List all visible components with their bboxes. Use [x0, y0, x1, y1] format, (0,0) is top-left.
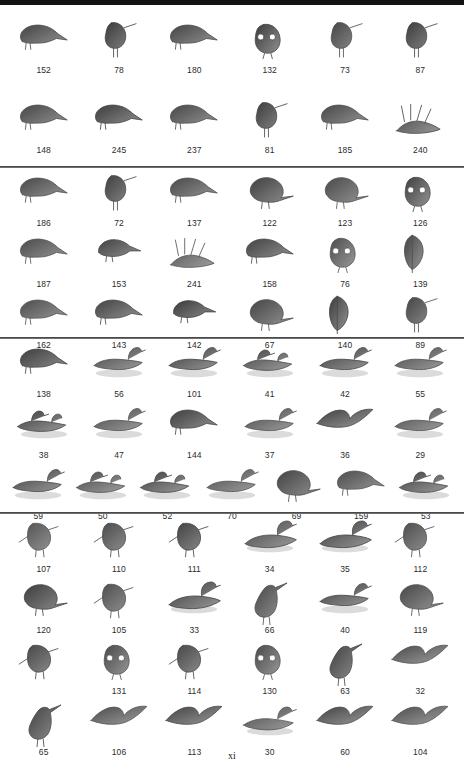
- duck-flying-figure: [314, 400, 376, 450]
- bird-pigeon-figure: [239, 168, 301, 218]
- plate-figure-cell[interactable]: 66: [232, 575, 307, 636]
- plate-figure-cell[interactable]: 120: [6, 575, 81, 636]
- plate-figure-cell[interactable]: 126: [383, 168, 458, 229]
- plate-figure-cell[interactable]: 76: [307, 229, 382, 290]
- plate-figure-cell[interactable]: 185: [307, 95, 382, 156]
- heron-green-figure: [13, 697, 75, 747]
- plate-row: 152781801327387: [0, 15, 464, 76]
- plate-figure-cell[interactable]: 106: [81, 697, 156, 758]
- plate-figure-cell[interactable]: 78: [81, 15, 156, 76]
- heron-standing-figure: [314, 636, 376, 686]
- plate-figure-cell[interactable]: 148: [6, 95, 81, 156]
- plate-page: 1527818013273871482452378118524018672137…: [0, 0, 464, 769]
- plate-figure-cell[interactable]: 33: [157, 575, 232, 636]
- plate-figure-cell[interactable]: 110: [81, 514, 156, 575]
- plate-figure-cell[interactable]: 144: [157, 400, 232, 461]
- figure-caption-number: 66: [265, 625, 275, 636]
- plate-figure-cell[interactable]: 241: [157, 229, 232, 290]
- figure-caption-number: 41: [265, 389, 275, 400]
- plate-figure-cell[interactable]: 237: [157, 95, 232, 156]
- bird-tern-figure: [163, 339, 225, 389]
- bird-barn-owl-figure: [389, 168, 451, 218]
- plate-row: 1071101113435112: [0, 514, 464, 575]
- bird-perched-kingbird-figure: [13, 95, 75, 145]
- plate-figure-cell[interactable]: 56: [81, 339, 156, 400]
- figure-caption-number: 105: [112, 625, 126, 636]
- plate-figure-cell[interactable]: 60: [307, 697, 382, 758]
- plate-figure-cell[interactable]: 123: [307, 168, 382, 229]
- plate-figure-cell[interactable]: 34: [232, 514, 307, 575]
- plate-figure-cell[interactable]: 130: [232, 636, 307, 697]
- figure-caption-number: 138: [36, 389, 50, 400]
- plate-figure-cell[interactable]: 36: [307, 400, 382, 461]
- bird-dove-figure: [314, 168, 376, 218]
- bird-standing-sandpiper-figure: [88, 15, 150, 65]
- bird-perched-crow-figure: [330, 461, 392, 511]
- page-number: xi: [0, 750, 464, 761]
- figure-caption-number: 29: [415, 450, 425, 461]
- bird-jay-figure: [239, 229, 301, 279]
- plate-figure-cell[interactable]: 119: [383, 575, 458, 636]
- plate-figure-cell[interactable]: 131: [81, 636, 156, 697]
- plate-figure-cell[interactable]: 81: [232, 95, 307, 156]
- plate-row: 120105336640119: [0, 575, 464, 636]
- figure-caption-number: 34: [265, 564, 275, 575]
- figure-caption-number: 73: [340, 65, 350, 76]
- plate-figure-cell[interactable]: 137: [157, 168, 232, 229]
- plate-figure-cell[interactable]: 138: [6, 339, 81, 400]
- plate-figure-cell[interactable]: 41: [232, 339, 307, 400]
- plate-figure-cell[interactable]: 72: [81, 168, 156, 229]
- bird-small-woodpecker-figure: [163, 290, 225, 340]
- plate-figure-cell[interactable]: 245: [81, 95, 156, 156]
- duck-swimming-bufflehead-figure: [88, 339, 150, 389]
- bird-in-grass-figure: [389, 95, 451, 145]
- plate-figure-cell[interactable]: 180: [157, 15, 232, 76]
- plate-figure-cell[interactable]: 240: [383, 95, 458, 156]
- plate-figure-cell[interactable]: 55: [383, 339, 458, 400]
- plate-figure-cell[interactable]: 47: [81, 400, 156, 461]
- plate-figure-cell[interactable]: 186: [6, 168, 81, 229]
- plate-figure-cell[interactable]: 40: [307, 575, 382, 636]
- plate-figure-cell[interactable]: 122: [232, 168, 307, 229]
- plate-rows: 1385610141425538471443736295950527069159…: [0, 339, 464, 511]
- figure-caption-number: 87: [415, 65, 425, 76]
- plate-section: 15278180132738714824523781185240: [0, 5, 464, 166]
- plate-figure-cell[interactable]: 112: [383, 514, 458, 575]
- plate-figure-cell[interactable]: 187: [6, 229, 81, 290]
- plate-figure-cell[interactable]: 101: [157, 339, 232, 400]
- plate-figure-cell[interactable]: 35: [307, 514, 382, 575]
- bird-perched-flycatcher-figure: [13, 15, 75, 65]
- bird-grouse-figure: [13, 575, 75, 625]
- plate-figure-cell[interactable]: 113: [157, 697, 232, 758]
- bird-woodpecker-dark-figure: [13, 339, 75, 389]
- figure-caption-number: 144: [187, 450, 201, 461]
- plate-figure-cell[interactable]: 132: [232, 15, 307, 76]
- duck-swimming-mallard-figure: [88, 400, 150, 450]
- owl-long-eared-figure: [239, 636, 301, 686]
- plate-figure-cell[interactable]: 105: [81, 575, 156, 636]
- plate-figure-cell[interactable]: 30: [232, 697, 307, 758]
- plate-figure-cell[interactable]: 87: [383, 15, 458, 76]
- figure-caption-number: 81: [265, 145, 275, 156]
- figure-caption-number: 186: [36, 218, 50, 229]
- plate-figure-cell[interactable]: 73: [307, 15, 382, 76]
- figure-caption-number: 119: [413, 625, 427, 636]
- plate-figure-cell[interactable]: 114: [157, 636, 232, 697]
- plate-figure-cell[interactable]: 63: [307, 636, 382, 697]
- plate-figure-cell[interactable]: 104: [383, 697, 458, 758]
- plate-figure-cell[interactable]: 42: [307, 339, 382, 400]
- plate-figure-cell[interactable]: 29: [383, 400, 458, 461]
- plate-figure-cell[interactable]: 139: [383, 229, 458, 290]
- figure-caption-number: 110: [112, 564, 126, 575]
- plate-figure-cell[interactable]: 107: [6, 514, 81, 575]
- plate-figure-cell[interactable]: 37: [232, 400, 307, 461]
- plate-figure-cell[interactable]: 65: [6, 697, 81, 758]
- plate-figure-cell[interactable]: [6, 636, 81, 697]
- figure-caption-number: 38: [39, 450, 49, 461]
- plate-figure-cell[interactable]: 32: [383, 636, 458, 697]
- plate-figure-cell[interactable]: 38: [6, 400, 81, 461]
- plate-figure-cell[interactable]: 158: [232, 229, 307, 290]
- plate-figure-cell[interactable]: 153: [81, 229, 156, 290]
- plate-figure-cell[interactable]: 152: [6, 15, 81, 76]
- plate-figure-cell[interactable]: 111: [157, 514, 232, 575]
